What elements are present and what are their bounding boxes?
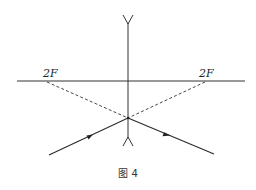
lens-bottom-arrow-icon (123, 137, 133, 146)
refracted-ray (128, 118, 214, 154)
ray-lens-point (127, 117, 129, 119)
incident-ray-arrow-icon (87, 135, 94, 140)
lens-top-arrow-icon (123, 15, 133, 24)
dashed-line-left (47, 82, 128, 118)
lens-ray-diagram: 2F 2F 图 4 (0, 0, 256, 190)
focal-label-left: 2F (42, 67, 58, 80)
focal-label-right: 2F (198, 67, 214, 80)
dashed-line-right (128, 82, 205, 118)
figure-caption: 图 4 (118, 168, 138, 179)
